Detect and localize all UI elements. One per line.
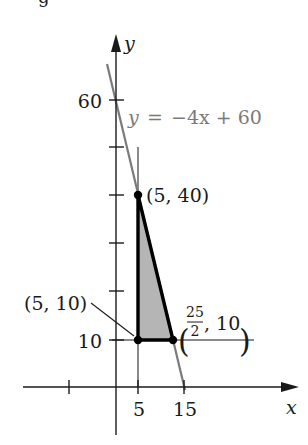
close-paren: ) (239, 322, 251, 359)
x-tick-label-5: 5 (133, 398, 145, 420)
equation-label: y = −4x + 60 (127, 106, 262, 128)
x-axis-label: x (286, 396, 297, 418)
y-axis-arrow-icon (111, 34, 121, 52)
y-axis-label: y (123, 32, 135, 54)
fraction-denominator: 2 (191, 323, 200, 339)
vertex-12.5-10 (169, 336, 177, 344)
vertex-label-rest: , 10 (204, 312, 240, 334)
equation-lhs: y (127, 106, 139, 128)
vertex-label-5-10: (5, 10) (24, 292, 87, 314)
x-axis-arrow-icon (281, 382, 299, 392)
vertex-label-25-2-10: ( 25 2 , 10 ) (178, 304, 251, 359)
vertex-5-40 (134, 191, 142, 199)
open-paren: ( (178, 322, 190, 359)
equation-equals: = (147, 106, 163, 128)
y-tick-label-60: 60 (78, 90, 102, 112)
cropped-caption-text: g (38, 0, 50, 7)
vertex-5-10 (134, 336, 142, 344)
y-tick-label-10: 10 (78, 330, 102, 352)
vertex-label-5-40: (5, 40) (146, 184, 209, 206)
fraction-numerator: 25 (186, 304, 204, 320)
equation-rhs: −4x + 60 (171, 106, 262, 128)
graph-figure: g y x 60 10 5 15 y = −4x (0, 0, 308, 445)
x-tick-label-15: 15 (173, 398, 197, 420)
